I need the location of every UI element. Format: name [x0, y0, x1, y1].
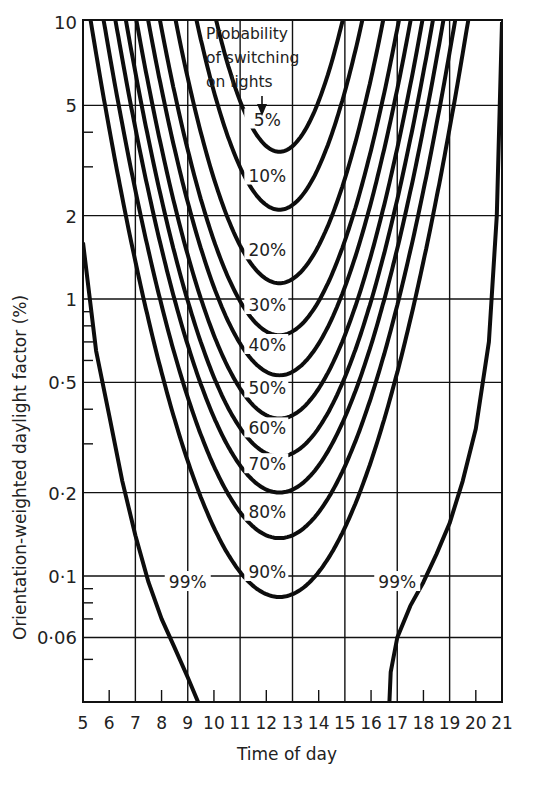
annotation-line-3: on lights [206, 70, 299, 94]
y-tick-label: 1 [66, 289, 77, 310]
curve-99pct-morning [83, 243, 198, 703]
annotation-line-1: Probability [206, 22, 299, 46]
curve-label: 5% [254, 110, 281, 130]
annotation-line-2: of switching [206, 46, 299, 70]
x-tick-label: 13 [282, 713, 304, 733]
y-tick-label: 2 [66, 206, 77, 227]
curve-label: 99% [378, 572, 416, 592]
x-tick-label: 19 [439, 713, 461, 733]
annotation-probability-title: Probability of switching on lights [206, 22, 299, 94]
y-tick-label: 0·2 [48, 483, 77, 504]
curve-label: 70% [248, 454, 286, 474]
x-tick-label: 10 [203, 713, 225, 733]
x-axis-label: Time of day [0, 744, 534, 764]
x-tick-label: 12 [255, 713, 277, 733]
y-axis-label: Orientation-weighted daylight factor (%) [10, 295, 30, 640]
x-tick-label: 7 [130, 713, 141, 733]
curve-label: 40% [248, 335, 286, 355]
x-tick-label: 16 [360, 713, 382, 733]
curve-label: 10% [248, 166, 286, 186]
chart-canvas: 105210·50·20·10·065678910111213141516171… [0, 0, 534, 793]
y-tick-label: 0·06 [37, 627, 77, 648]
x-tick-label: 17 [386, 713, 408, 733]
y-tick-label: 5 [66, 95, 77, 116]
curve-label: 30% [248, 295, 286, 315]
curve-label: 20% [248, 240, 286, 260]
x-tick-label: 8 [156, 713, 167, 733]
y-tick-label: 0·1 [48, 566, 77, 587]
x-tick-label: 9 [182, 713, 193, 733]
x-tick-label: 21 [491, 713, 513, 733]
x-tick-label: 14 [308, 713, 330, 733]
curve-label: 60% [248, 418, 286, 438]
x-tick-label: 6 [104, 713, 115, 733]
x-tick-label: 15 [334, 713, 356, 733]
y-tick-label: 0·5 [48, 372, 77, 393]
x-tick-label: 18 [413, 713, 435, 733]
x-tick-label: 11 [229, 713, 251, 733]
curve-label: 80% [248, 502, 286, 522]
x-tick-label: 20 [465, 713, 487, 733]
curve-label: 90% [248, 562, 286, 582]
curve-label: 50% [248, 378, 286, 398]
x-tick-label: 5 [78, 713, 89, 733]
curve-label: 99% [169, 572, 207, 592]
curve-99pct-evening [389, 22, 502, 702]
y-tick-label: 10 [54, 12, 77, 33]
